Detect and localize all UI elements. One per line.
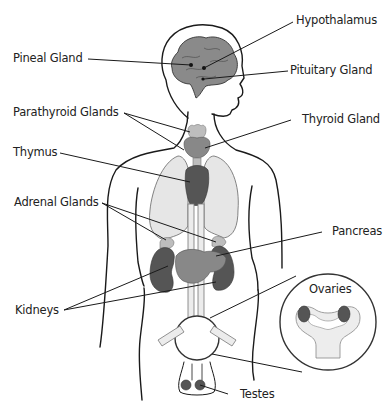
leader-thyroid	[205, 120, 291, 148]
leader-parathyroid-b	[124, 113, 184, 150]
spermatic-cords	[192, 364, 202, 380]
label-pineal-gland: Pineal Gland	[13, 51, 82, 65]
testis-left	[181, 380, 191, 390]
leader-kidney-a	[64, 266, 168, 310]
scrotum	[179, 362, 216, 395]
label-kidneys: Kidneys	[15, 303, 59, 317]
left-lung	[150, 156, 188, 240]
adrenal-gland-left	[160, 238, 174, 249]
label-hypothalamus: Hypothalamus	[296, 13, 377, 27]
leader-testes	[200, 385, 228, 394]
label-ovaries: Ovaries	[309, 282, 352, 296]
label-testes: Testes	[240, 387, 275, 401]
kidney-left	[150, 248, 174, 293]
label-adrenal-glands: Adrenal Glands	[14, 195, 99, 209]
leader-pancreas	[216, 232, 322, 256]
ovary-right	[338, 306, 350, 322]
leader-parathyroid-a	[124, 113, 190, 132]
label-thyroid-gland: Thyroid Gland	[302, 112, 380, 126]
ovary-left	[298, 306, 310, 322]
right-lung	[204, 156, 238, 238]
label-parathyroid-glands: Parathyroid Glands	[13, 105, 119, 119]
label-thymus: Thymus	[13, 145, 57, 159]
callout-line-bottom	[212, 354, 302, 372]
label-pancreas: Pancreas	[332, 224, 382, 238]
label-pituitary-gland: Pituitary Gland	[290, 63, 372, 77]
pelvis-callout-circle	[175, 316, 219, 360]
